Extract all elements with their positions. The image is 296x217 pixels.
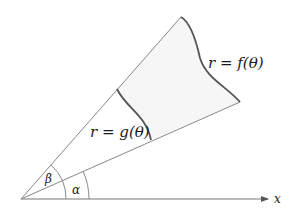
label-f: r = f(θ): [208, 54, 264, 72]
label-beta: β: [44, 172, 52, 186]
shaded-region: [117, 17, 240, 140]
label-x: x: [274, 192, 281, 206]
label-alpha: α: [72, 183, 80, 197]
ray-alpha: [21, 102, 240, 199]
label-g: r = g(θ): [90, 123, 150, 141]
polar-region-diagram: r = f(θ) r = g(θ) α β x: [0, 0, 296, 217]
arc-alpha: [83, 171, 89, 199]
